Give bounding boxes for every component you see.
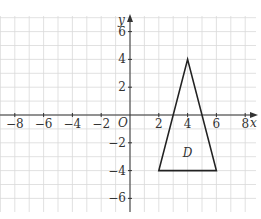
x-tick-label: −2	[92, 117, 110, 131]
x-tick-label: 2	[155, 117, 163, 131]
coordinate-graph: −8−6−4−22468642−2−4−6 D x y O	[0, 0, 261, 219]
origin-label: O	[118, 116, 128, 130]
y-tick-label: −6	[108, 191, 126, 205]
x-tick-label: 8	[241, 117, 249, 131]
x-tick-label: −6	[35, 117, 53, 131]
y-axis-label: y	[117, 13, 125, 27]
x-axis-label: x	[250, 116, 257, 130]
x-tick-label: 6	[213, 117, 221, 131]
y-tick-label: −2	[108, 136, 126, 150]
x-tick-label: −4	[64, 117, 82, 131]
shape-label-D: D	[182, 146, 193, 160]
x-tick-label: −8	[6, 117, 24, 131]
x-tick-label: 4	[184, 117, 192, 131]
y-tick-label: −4	[108, 164, 126, 178]
axes	[0, 14, 258, 212]
grid-lines	[0, 16, 256, 212]
y-tick-label: 4	[118, 52, 126, 66]
y-tick-label: 2	[118, 80, 126, 94]
